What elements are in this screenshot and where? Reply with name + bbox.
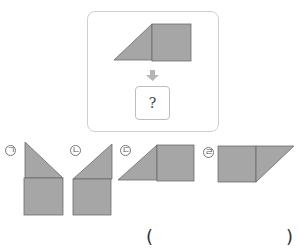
question-mark: ? (149, 95, 157, 111)
answer-close-paren: ) (286, 226, 293, 247)
option-2-label[interactable]: ㄴ (70, 145, 81, 156)
option-3-label[interactable]: ㄷ (120, 145, 131, 156)
figures (0, 0, 299, 252)
question-box: ? (135, 86, 170, 120)
option-4-shape[interactable] (218, 146, 294, 182)
answer-open-paren: ( (146, 226, 153, 247)
original-shape (114, 24, 191, 61)
down-arrow-icon (146, 70, 159, 81)
option-4-label[interactable]: ㄹ (203, 147, 214, 158)
option-1-shape[interactable] (24, 142, 63, 215)
option-1-label[interactable]: ㄱ (5, 145, 16, 156)
